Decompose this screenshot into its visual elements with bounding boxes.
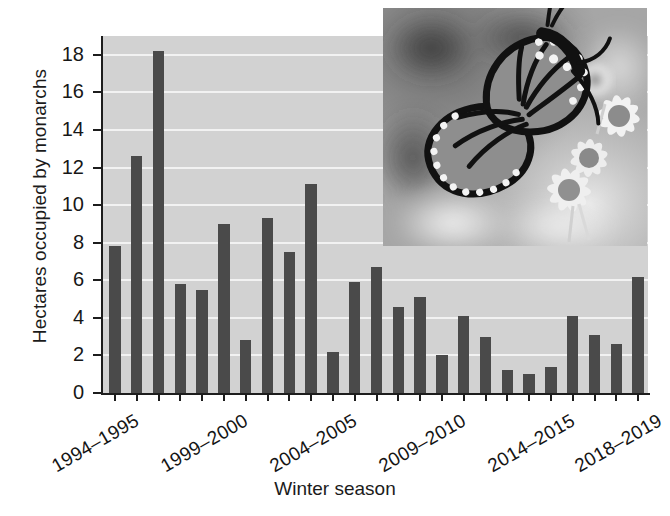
x-axis-tick [179, 394, 181, 401]
x-axis-tick-label: 2014–2015 [484, 410, 579, 478]
y-axis-tick-label: 18 [24, 44, 84, 64]
y-axis-tick-label: 16 [24, 81, 84, 101]
x-axis-tick [419, 394, 421, 401]
bar [109, 246, 120, 393]
x-axis-title: Winter season [0, 478, 670, 500]
bar [393, 307, 404, 393]
monarch-butterfly-photo [383, 8, 647, 246]
x-axis-tick [637, 394, 639, 401]
bar [545, 367, 556, 393]
x-axis-tick [615, 394, 617, 401]
x-axis-tick [158, 394, 160, 401]
x-axis-tick [332, 394, 334, 401]
y-axis-tick-label: 0 [24, 382, 84, 402]
bar [589, 335, 600, 393]
bar [436, 355, 447, 393]
bar [458, 316, 469, 393]
x-axis-tick [376, 394, 378, 401]
bar [349, 282, 360, 393]
bar [632, 277, 643, 393]
bar [240, 340, 251, 393]
y-axis-tick [93, 91, 102, 93]
x-axis-tick [485, 394, 487, 401]
monarch-population-bar-chart: Hectares occupied by monarchs 0246810121… [0, 0, 670, 516]
x-axis-tick [245, 394, 247, 401]
bar [305, 184, 316, 393]
y-axis-tick [93, 204, 102, 206]
bar [502, 370, 513, 393]
x-axis-tick [441, 394, 443, 401]
x-axis-tick-label: 1994–1995 [48, 410, 143, 478]
x-axis-tick-label: 2004–2005 [266, 410, 361, 478]
y-axis-tick [93, 54, 102, 56]
bar [196, 290, 207, 393]
x-axis-tick [594, 394, 596, 401]
y-axis-tick-label: 14 [24, 119, 84, 139]
bar [218, 224, 229, 393]
y-axis-line [101, 36, 103, 395]
bar [523, 374, 534, 393]
y-axis-tick-label: 10 [24, 194, 84, 214]
x-axis-tick [310, 394, 312, 401]
bar [567, 316, 578, 393]
x-axis-tick-label: 2018–2019 [571, 410, 666, 478]
x-axis-tick [463, 394, 465, 401]
x-axis-tick [354, 394, 356, 401]
bar [327, 352, 338, 393]
x-axis-tick [267, 394, 269, 401]
bar [262, 218, 273, 393]
y-axis-tick-label: 8 [24, 232, 84, 252]
x-axis-tick [136, 394, 138, 401]
y-axis-tick [93, 167, 102, 169]
bar [371, 267, 382, 393]
y-axis-tick [93, 279, 102, 281]
bar [131, 156, 142, 393]
bar [480, 337, 491, 393]
bar [153, 51, 164, 393]
x-axis-tick [223, 394, 225, 401]
y-axis-tick [93, 354, 102, 356]
x-axis-tick [201, 394, 203, 401]
x-axis-tick [550, 394, 552, 401]
bar [284, 252, 295, 393]
y-axis-tick [93, 242, 102, 244]
bar [611, 344, 622, 393]
x-axis-tick [397, 394, 399, 401]
y-axis-tick-label: 12 [24, 157, 84, 177]
y-axis-tick-label: 4 [24, 307, 84, 327]
x-axis-tick [528, 394, 530, 401]
y-axis-tick-label: 6 [24, 269, 84, 289]
y-axis-tick [93, 392, 102, 394]
x-axis-tick-label: 2009–2010 [375, 410, 470, 478]
x-axis-tick [288, 394, 290, 401]
x-axis-tick [114, 394, 116, 401]
y-axis-tick [93, 317, 102, 319]
y-axis-tick-label: 2 [24, 344, 84, 364]
x-axis-tick-label: 1999–2000 [157, 410, 252, 478]
y-axis-tick [93, 129, 102, 131]
x-axis-tick [572, 394, 574, 401]
bar [414, 297, 425, 393]
x-axis-tick [506, 394, 508, 401]
bar [175, 284, 186, 393]
